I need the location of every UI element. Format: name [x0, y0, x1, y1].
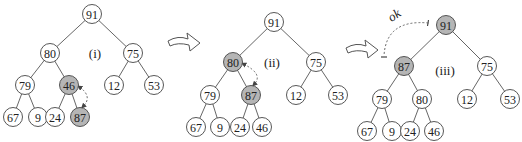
heap-node: 12: [458, 90, 477, 109]
node-value: 12: [108, 79, 120, 93]
node-value: 67: [7, 111, 19, 125]
tree-caption: (iii): [435, 63, 455, 78]
heap-node: 24: [46, 108, 65, 127]
node-value: 75: [481, 60, 493, 74]
heap-node: 91: [83, 5, 102, 24]
node-value: 79: [19, 79, 31, 93]
heap-node: 24: [401, 122, 420, 141]
heap-node: 75: [124, 44, 143, 63]
swap-arrow-icon: [80, 87, 88, 107]
node-value: 46: [256, 121, 268, 135]
node-value: 9: [35, 111, 41, 125]
transition-arrow-icon: [346, 40, 378, 58]
node-value: 9: [217, 121, 223, 135]
heap-node: 87: [242, 86, 261, 105]
node-value: 24: [234, 121, 246, 135]
node-value: 53: [148, 79, 160, 93]
heap-node: 91: [437, 16, 456, 35]
node-value: 46: [428, 125, 440, 139]
heap-node: 46: [60, 76, 79, 95]
heap-node: 75: [478, 57, 497, 76]
node-value: 53: [332, 89, 344, 103]
node-value: 80: [44, 47, 56, 61]
node-value: 46: [63, 79, 75, 93]
heap-node: 12: [287, 86, 306, 105]
node-value: 75: [127, 47, 139, 61]
transition-arrow-icon: [168, 33, 200, 51]
node-value: 12: [290, 89, 302, 103]
heap-node: 53: [501, 90, 520, 109]
heap-node: 53: [145, 76, 164, 95]
heap-node: 67: [187, 118, 206, 137]
heap-node: 9: [211, 118, 230, 137]
node-value: 9: [389, 125, 395, 139]
heap-node: 12: [105, 76, 124, 95]
node-value: 53: [504, 93, 516, 107]
heap-node: 79: [201, 86, 220, 105]
heap-node: 80: [224, 53, 243, 72]
heap-node: 46: [425, 122, 444, 141]
node-value: 75: [310, 56, 322, 70]
node-value: 87: [74, 111, 86, 125]
heap-node: 91: [265, 13, 284, 32]
node-value: 87: [398, 60, 410, 74]
heap-node: 9: [383, 122, 402, 141]
node-value: 79: [204, 89, 216, 103]
node-value: 24: [404, 125, 416, 139]
tree-caption: (ii): [264, 55, 280, 70]
node-value: 80: [416, 93, 428, 107]
ok-compare-arc: [384, 23, 429, 56]
heap-node: 46: [253, 118, 272, 137]
heap-node: 80: [413, 90, 432, 109]
heap-node: 87: [71, 108, 90, 127]
heap-node: 67: [358, 122, 377, 141]
heap-diagram: ok 9180757946125367924879180757987125367…: [0, 0, 522, 142]
heap-node: 87: [395, 57, 414, 76]
heap-node: 9: [29, 108, 48, 127]
node-value: 91: [440, 19, 452, 33]
heap-node: 67: [4, 108, 23, 127]
node-value: 67: [190, 121, 202, 135]
heap-node: 79: [16, 76, 35, 95]
heap-node: 80: [41, 44, 60, 63]
heap-node: 24: [231, 118, 250, 137]
node-value: 80: [227, 56, 239, 70]
node-value: 67: [361, 125, 373, 139]
heap-node: 79: [373, 90, 392, 109]
heap-node: 75: [307, 53, 326, 72]
swap-arrow-icon: [244, 64, 258, 85]
ok-label: ok: [385, 5, 404, 24]
node-value: 12: [461, 93, 473, 107]
node-value: 87: [245, 89, 257, 103]
node-value: 91: [86, 8, 98, 22]
tree-caption: (i): [89, 46, 101, 61]
heap-node: 53: [329, 86, 348, 105]
node-value: 24: [49, 111, 61, 125]
node-value: 91: [268, 16, 280, 30]
node-value: 79: [376, 93, 388, 107]
